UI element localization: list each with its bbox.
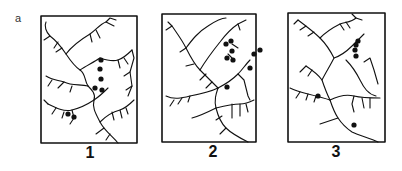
- river-network: [166, 18, 254, 142]
- map-frame: [288, 13, 385, 142]
- map-1: [41, 16, 137, 143]
- site-dots: [315, 38, 360, 127]
- map-label-1: 1: [80, 144, 100, 162]
- map-label-2: 2: [203, 143, 223, 161]
- map-2: [162, 14, 263, 142]
- map-label-3: 3: [326, 143, 346, 161]
- map-3: [288, 13, 385, 142]
- river-network: [44, 18, 134, 143]
- river-network: [290, 14, 380, 142]
